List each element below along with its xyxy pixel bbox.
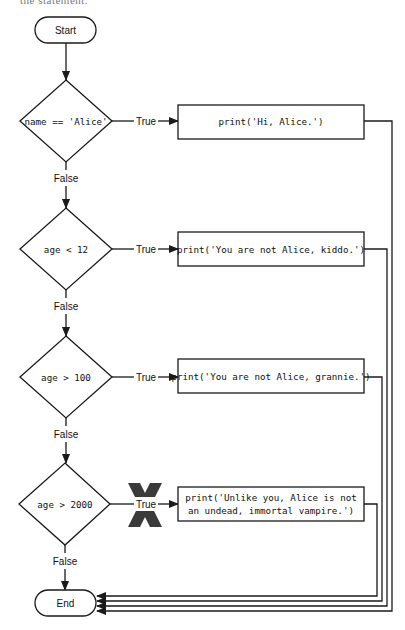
decision-condition: age > 100 — [41, 372, 91, 383]
end-label: End — [57, 598, 75, 609]
false-label: False — [53, 556, 78, 567]
decision-condition: name == 'Alice' — [25, 116, 108, 127]
decision-name-alice: name == 'Alice' — [20, 80, 112, 162]
true-label: True — [136, 244, 157, 255]
decision-age-over-2000: age > 2000 — [19, 463, 110, 545]
action-box: print('Unlike you, Alice is not an undea… — [178, 487, 364, 521]
decision-age-over-100: age > 100 — [20, 336, 112, 418]
action-code: print('Hi, Alice.') — [218, 116, 323, 127]
action-box: print('Hi, Alice.') — [178, 105, 364, 139]
decision-condition: age > 2000 — [37, 499, 92, 510]
true-label: True — [136, 499, 157, 510]
start-label: Start — [55, 25, 76, 36]
flowchart-canvas: Start name == 'Alice' True print('Hi, Al… — [0, 0, 405, 630]
true-label: True — [136, 372, 157, 383]
decision-age-under-12: age < 12 — [20, 208, 112, 290]
action-box: print('You are not Alice, grannie.') — [171, 359, 370, 393]
false-label: False — [54, 173, 79, 184]
false-label: False — [54, 429, 79, 440]
true-label: True — [136, 116, 157, 127]
action-code: print('You are not Alice, grannie.') — [171, 371, 370, 382]
start-terminal: Start — [35, 17, 96, 43]
action-code: print('You are not Alice, kiddo.') — [177, 244, 365, 255]
action-code-line-1: print('Unlike you, Alice is not — [185, 492, 356, 503]
action-box: print('You are not Alice, kiddo.') — [177, 232, 365, 266]
false-label: False — [54, 301, 79, 312]
action-code-line-2: an undead, immortal vampire.') — [188, 505, 354, 516]
decision-condition: age < 12 — [44, 244, 88, 255]
end-terminal: End — [35, 590, 96, 616]
